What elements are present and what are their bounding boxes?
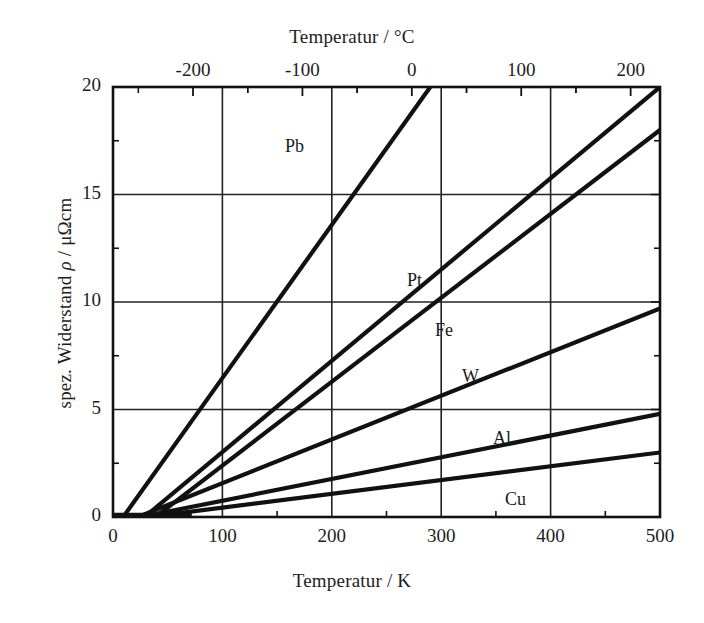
y-tick-label: 15 xyxy=(45,182,101,204)
x-tick-label-top: 100 xyxy=(481,59,561,81)
x-tick-label-bottom: 300 xyxy=(401,525,481,547)
y-tick-label: 0 xyxy=(45,504,101,526)
series-line-fe xyxy=(157,130,660,516)
x-tick-label-top: -100 xyxy=(262,59,342,81)
series-label-fe: Fe xyxy=(435,320,453,341)
series-label-al: Al xyxy=(493,428,511,449)
y-tick-label: 20 xyxy=(45,74,101,96)
series-label-pt: Pt xyxy=(407,270,422,291)
series-label-pb: Pb xyxy=(285,136,304,157)
x-tick-label-top: -200 xyxy=(153,59,233,81)
x-tick-label-bottom: 100 xyxy=(182,525,262,547)
y-tick-label: 10 xyxy=(45,289,101,311)
x-tick-label-bottom: 500 xyxy=(620,525,700,547)
x-tick-label-bottom: 200 xyxy=(292,525,372,547)
y-tick-label: 5 xyxy=(45,397,101,419)
x-tick-label-top: 200 xyxy=(591,59,671,81)
series-label-cu: Cu xyxy=(505,489,526,510)
x-tick-label-bottom: 0 xyxy=(73,525,153,547)
x-tick-label-top: 0 xyxy=(372,59,452,81)
series-label-w: W xyxy=(462,366,479,387)
resistivity-chart-figure: Temperatur / °C Temperatur / K spez. Wid… xyxy=(0,0,704,623)
x-tick-label-bottom: 400 xyxy=(511,525,591,547)
